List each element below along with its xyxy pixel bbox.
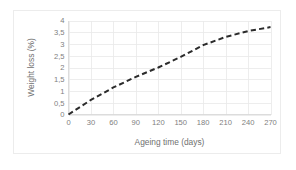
x-tick-label: 120: [152, 118, 165, 127]
y-tick-label: 1: [60, 87, 64, 96]
y-tick-label: 1,5: [54, 75, 65, 84]
x-tick-label: 240: [242, 118, 255, 127]
y-axis-title: Weight loss (%): [26, 38, 36, 97]
y-tick-label: 0: [60, 110, 64, 119]
x-tick-label: 270: [264, 118, 277, 127]
x-axis-tick-labels: 0306090120150180210240270: [66, 118, 276, 127]
y-tick-label: 3,5: [54, 28, 65, 37]
chart-gridlines: [69, 21, 272, 116]
chart-axes: [69, 21, 271, 115]
y-tick-label: 2,5: [54, 52, 65, 61]
y-tick-label: 0,5: [54, 99, 65, 108]
data-series-line: [69, 27, 271, 114]
x-axis-title: Ageing time (days): [135, 137, 205, 147]
y-tick-label: 4: [60, 16, 64, 25]
x-tick-label: 0: [66, 118, 70, 127]
x-tick-label: 150: [174, 118, 187, 127]
weight-loss-line-chart: 0306090120150180210240270 00,511,522,533…: [0, 0, 296, 170]
y-axis-tick-labels: 00,511,522,533,54: [54, 16, 65, 119]
chart-series: [69, 27, 271, 114]
y-tick-label: 2: [60, 63, 64, 72]
x-tick-label: 30: [87, 118, 95, 127]
x-tick-label: 180: [197, 118, 210, 127]
x-tick-label: 60: [109, 118, 117, 127]
y-tick-label: 3: [60, 40, 64, 49]
x-tick-label: 210: [219, 118, 232, 127]
x-tick-label: 90: [132, 118, 140, 127]
